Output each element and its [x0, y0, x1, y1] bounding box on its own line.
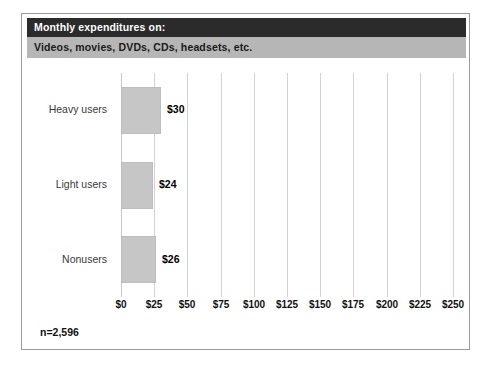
plot-area: Heavy users$30Light users$24Nonusers$26 [22, 73, 469, 297]
gridline [254, 73, 255, 297]
category-label: Heavy users [22, 103, 107, 115]
x-tick-label: $150 [309, 299, 331, 310]
chart-title: Monthly expenditures on: [34, 21, 165, 33]
category-label: Light users [22, 178, 107, 190]
x-tick-label: $100 [243, 299, 265, 310]
gridline [287, 73, 288, 297]
gridline [221, 73, 222, 297]
x-tick-label: $75 [213, 299, 230, 310]
x-tick-label: $250 [442, 299, 464, 310]
x-tick-label: $125 [276, 299, 298, 310]
x-tick-label: $50 [179, 299, 196, 310]
gridline [353, 73, 354, 297]
bar [121, 87, 161, 134]
bar-value-label: $24 [159, 178, 177, 190]
chart-subtitle-band: Videos, movies, DVDs, CDs, headsets, etc… [27, 37, 466, 58]
gridline [453, 73, 454, 297]
chart-title-band: Monthly expenditures on: [27, 18, 466, 37]
x-tick-label: $200 [376, 299, 398, 310]
bar-value-label: $26 [162, 253, 180, 265]
sample-size-note: n=2,596 [40, 326, 79, 338]
gridline [387, 73, 388, 297]
chart-figure: Monthly expenditures on: Videos, movies,… [21, 13, 470, 350]
gridline [187, 73, 188, 297]
bar-value-label: $30 [167, 103, 185, 115]
x-tick-label: $25 [146, 299, 163, 310]
x-tick-label: $225 [409, 299, 431, 310]
bar [121, 162, 153, 209]
x-axis-tick-labels: $0$25$50$75$100$125$150$175$200$225$250 [22, 299, 469, 315]
gridline [420, 73, 421, 297]
chart-subtitle: Videos, movies, DVDs, CDs, headsets, etc… [34, 41, 252, 53]
x-tick-label: $0 [115, 299, 126, 310]
bar [121, 236, 156, 283]
gridline [320, 73, 321, 297]
x-tick-label: $175 [342, 299, 364, 310]
category-label: Nonusers [22, 253, 107, 265]
